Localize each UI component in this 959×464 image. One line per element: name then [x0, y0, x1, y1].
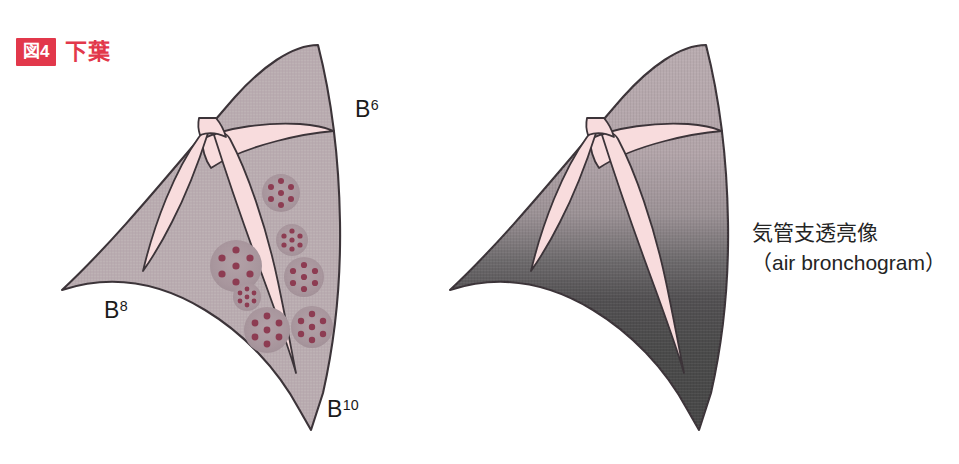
- bronchus-label-b6-base: B: [355, 96, 370, 122]
- bronchus-label-b8: B8: [104, 299, 127, 322]
- bronchus-label-b10-sup: 10: [343, 397, 359, 413]
- figure-caption: 図4 下葉: [16, 38, 111, 66]
- bronchus-label-b8-base: B: [104, 297, 119, 323]
- annotation-line-english: （air bronchogram）: [751, 248, 946, 278]
- bronchus-label-b10: B10: [327, 398, 358, 421]
- right-lobe-outline: [450, 45, 728, 430]
- figure-root: 図4 下葉 B6 B8 B10 気管支透亮像 （air bronchogram）: [0, 0, 959, 464]
- bronchus-label-b10-base: B: [327, 396, 342, 422]
- annotation-line-japanese: 気管支透亮像: [752, 221, 878, 244]
- bronchus-label-b8-sup: 8: [120, 298, 128, 314]
- air-bronchogram-annotation: 気管支透亮像 （air bronchogram）: [752, 218, 946, 279]
- bronchus-label-b6: B6: [355, 98, 378, 121]
- figure-caption-text: 下葉: [65, 41, 111, 63]
- bronchus-label-b6-sup: 6: [371, 97, 379, 113]
- figure-number-badge: 図4: [16, 38, 56, 66]
